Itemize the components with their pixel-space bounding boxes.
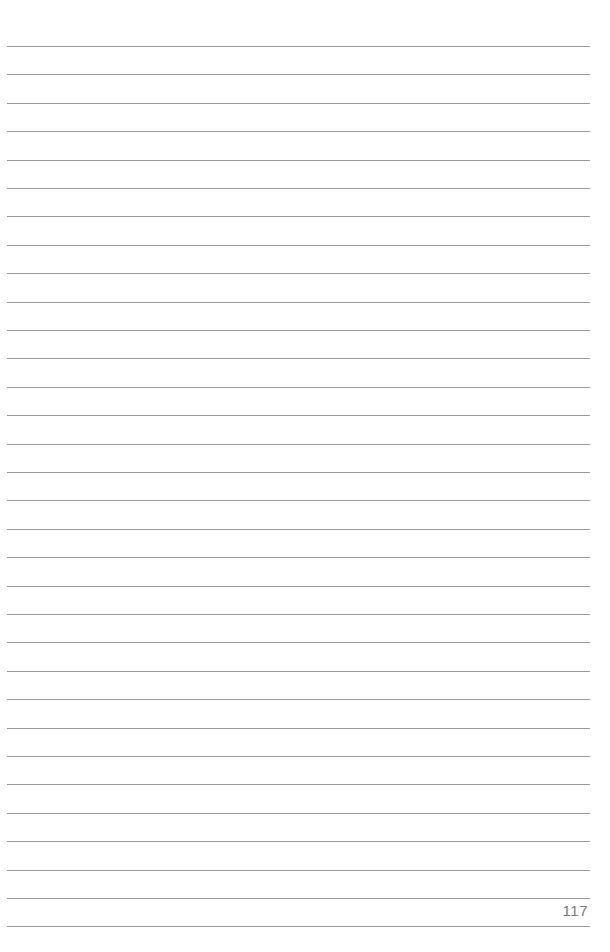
ruled-line xyxy=(7,841,590,842)
ruled-line xyxy=(7,415,590,416)
notebook-page: 117 xyxy=(0,0,610,952)
ruled-line xyxy=(7,74,590,75)
ruled-line xyxy=(7,160,590,161)
ruled-line xyxy=(7,245,590,246)
ruled-line xyxy=(7,529,590,530)
ruled-line xyxy=(7,131,590,132)
ruled-line xyxy=(7,273,590,274)
ruled-line xyxy=(7,188,590,189)
ruled-line xyxy=(7,387,590,388)
ruled-line xyxy=(7,756,590,757)
ruled-line xyxy=(7,216,590,217)
ruled-line xyxy=(7,46,590,47)
ruled-line xyxy=(7,358,590,359)
ruled-line xyxy=(7,671,590,672)
ruled-line xyxy=(7,500,590,501)
ruled-line xyxy=(7,472,590,473)
ruled-line xyxy=(7,614,590,615)
ruled-line xyxy=(7,586,590,587)
page-number: 117 xyxy=(556,902,588,919)
ruled-line xyxy=(7,784,590,785)
ruled-line xyxy=(7,898,590,899)
ruled-line xyxy=(7,330,590,331)
ruled-line xyxy=(7,557,590,558)
ruled-line xyxy=(7,642,590,643)
ruled-line xyxy=(7,813,590,814)
ruled-line xyxy=(7,728,590,729)
ruled-line xyxy=(7,302,590,303)
ruled-line xyxy=(7,926,590,927)
ruled-line xyxy=(7,103,590,104)
ruled-line xyxy=(7,699,590,700)
ruled-line xyxy=(7,444,590,445)
ruled-line xyxy=(7,870,590,871)
